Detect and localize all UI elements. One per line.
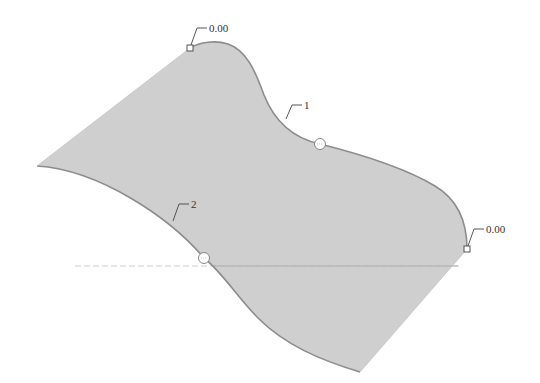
- right-square-handle[interactable]: [464, 246, 470, 252]
- curve-1-circle-handle[interactable]: [315, 139, 326, 150]
- surface-patch: [37, 42, 467, 372]
- curve-2-callout: 2: [191, 198, 197, 210]
- top-handle-value-label: 0.00: [209, 22, 229, 34]
- surface-diagram: 0.00 0.00 1 2: [0, 0, 540, 383]
- right-leader-line: [468, 229, 484, 246]
- curve-1-leader-line: [286, 105, 302, 119]
- right-handle-value-label: 0.00: [486, 223, 506, 235]
- top-square-handle[interactable]: [187, 45, 193, 51]
- curve-2-circle-handle[interactable]: [199, 253, 210, 264]
- curve-1-callout: 1: [304, 99, 310, 111]
